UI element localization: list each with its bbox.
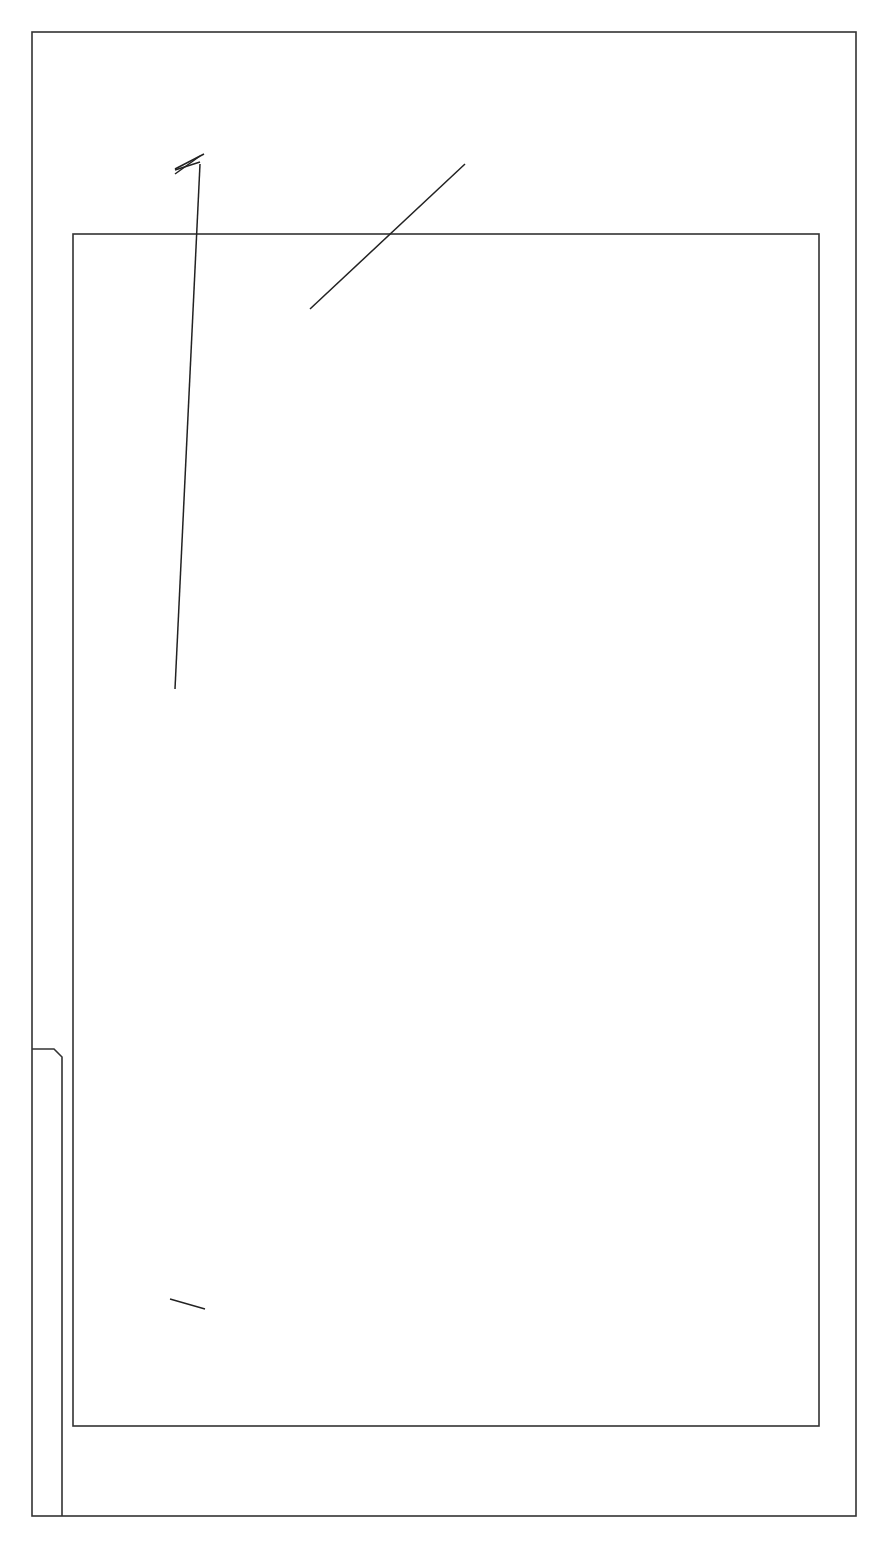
assoc-orgmodel-internal [170, 1299, 205, 1309]
assoc-vendor-qos-main [175, 164, 200, 689]
use-case-diagram [0, 0, 889, 1549]
frame-title-tab [32, 1049, 62, 1516]
system-boundary [73, 234, 819, 1426]
diagram-stage [0, 0, 889, 1549]
assoc-tool-select [310, 164, 465, 309]
package-frame [32, 32, 856, 1516]
